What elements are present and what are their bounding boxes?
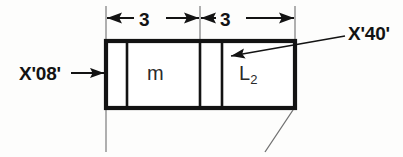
cell-label-l2-base: L	[239, 62, 250, 84]
cell-label-m: m	[147, 63, 164, 83]
callout-label-x40: X'40'	[348, 24, 390, 43]
leader-bottom-right	[265, 110, 293, 152]
data-field-box	[106, 41, 295, 108]
cell-label-l2: L2	[239, 63, 257, 83]
dimension-label-left: 3	[139, 10, 150, 29]
dimension-label-right: 3	[220, 10, 231, 29]
cell-label-l2-subscript: 2	[250, 72, 257, 87]
callout-label-x08: X'08'	[19, 64, 61, 83]
diagram-root: 3 3 X'08' X'40' m L2	[0, 0, 403, 157]
